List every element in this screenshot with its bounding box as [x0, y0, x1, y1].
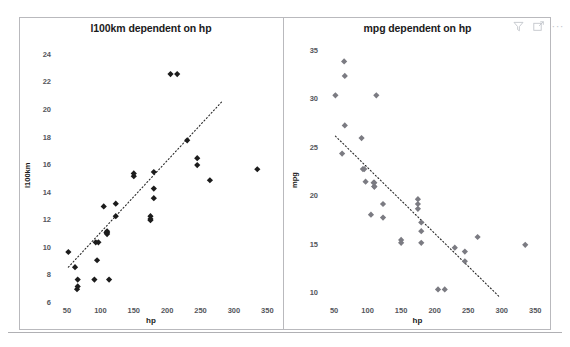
data-point[interactable] [368, 212, 374, 218]
chart-visual-root: ··· l100km dependent on hp 6810121416182… [0, 0, 570, 347]
more-options-icon[interactable]: ··· [552, 22, 565, 31]
y-tick-label: 20 [27, 105, 51, 114]
y-tick-label: 8 [27, 270, 51, 279]
data-point[interactable] [435, 286, 441, 292]
data-point[interactable] [167, 71, 173, 77]
data-point[interactable] [371, 180, 377, 186]
data-point[interactable] [194, 155, 200, 161]
x-tick-label: 200 [152, 306, 182, 315]
data-point[interactable] [380, 201, 386, 207]
y-tick-label: 10 [294, 288, 318, 297]
data-point[interactable] [65, 249, 71, 255]
trend-line [335, 136, 499, 297]
x-tick-label: 100 [353, 306, 383, 315]
y-tick-label: 30 [294, 94, 318, 103]
x-tick-label: 350 [252, 306, 282, 315]
data-point[interactable] [151, 195, 157, 201]
bottom-rule [8, 332, 562, 333]
data-point[interactable] [339, 150, 345, 156]
data-point[interactable] [442, 286, 448, 292]
data-point[interactable] [151, 185, 157, 191]
plot-area: 10152025303550100150200250300350 [284, 17, 551, 330]
data-point[interactable] [254, 166, 260, 172]
data-point[interactable] [101, 203, 107, 209]
y-tick-label: 25 [294, 143, 318, 152]
chart-panel-mpg: mpg dependent on hp 10152025303550100150… [284, 17, 551, 330]
data-point[interactable] [452, 245, 458, 251]
x-tick-label: 150 [119, 306, 149, 315]
data-point[interactable] [373, 92, 379, 98]
y-axis-label: mpg [290, 172, 299, 188]
data-point[interactable] [358, 135, 364, 141]
y-tick-label: 12 [27, 215, 51, 224]
data-point[interactable] [106, 276, 112, 282]
trend-line [68, 102, 222, 267]
data-point[interactable] [75, 276, 81, 282]
data-point[interactable] [462, 258, 468, 264]
data-point[interactable] [462, 248, 468, 254]
data-point[interactable] [151, 169, 157, 175]
y-tick-label: 6 [27, 298, 51, 307]
y-tick-label: 20 [294, 191, 318, 200]
focus-mode-icon[interactable] [532, 20, 545, 33]
x-tick-label: 350 [520, 306, 550, 315]
data-point[interactable] [418, 240, 424, 246]
data-point[interactable] [475, 234, 481, 240]
data-point[interactable] [207, 177, 213, 183]
y-tick-label: 14 [27, 188, 51, 197]
x-tick-label: 300 [487, 306, 517, 315]
data-point[interactable] [418, 219, 424, 225]
filter-icon[interactable] [512, 20, 525, 33]
data-point[interactable] [522, 242, 528, 248]
data-point[interactable] [380, 215, 386, 221]
data-point[interactable] [332, 92, 338, 98]
data-point[interactable] [341, 58, 347, 64]
y-tick-label: 22 [27, 77, 51, 86]
x-tick-label: 250 [186, 306, 216, 315]
data-point[interactable] [418, 228, 424, 234]
x-tick-label: 300 [219, 306, 249, 315]
y-tick-label: 24 [27, 50, 51, 59]
y-tick-label: 35 [294, 46, 318, 55]
x-axis-label: hp [284, 316, 551, 325]
x-tick-label: 100 [85, 306, 115, 315]
data-point[interactable] [91, 276, 97, 282]
data-point[interactable] [362, 179, 368, 185]
data-point[interactable] [184, 137, 190, 143]
data-point[interactable] [94, 257, 100, 263]
x-tick-label: 50 [319, 306, 349, 315]
data-point[interactable] [342, 122, 348, 128]
data-point[interactable] [72, 264, 78, 270]
data-point[interactable] [342, 73, 348, 79]
y-tick-label: 18 [27, 133, 51, 142]
data-point[interactable] [194, 162, 200, 168]
y-tick-label: 10 [27, 243, 51, 252]
x-tick-label: 150 [386, 306, 416, 315]
chart-panel-l100km: l100km dependent on hp 68101214161820222… [19, 17, 283, 330]
x-tick-label: 50 [52, 306, 82, 315]
x-tick-label: 200 [420, 306, 450, 315]
plot-area: 68101214161820222450100150200250300350 [19, 17, 283, 330]
chart-toolbar: ··· [512, 20, 565, 33]
scatter-plot-svg [19, 17, 283, 330]
x-axis-label: hp [19, 316, 283, 325]
data-point[interactable] [415, 196, 421, 202]
data-point[interactable] [113, 201, 119, 207]
scatter-plot-svg [284, 17, 551, 330]
x-tick-label: 250 [453, 306, 483, 315]
data-point[interactable] [174, 71, 180, 77]
y-tick-label: 15 [294, 240, 318, 249]
y-axis-label: l100km [23, 163, 32, 188]
